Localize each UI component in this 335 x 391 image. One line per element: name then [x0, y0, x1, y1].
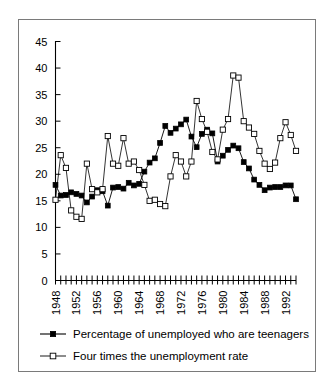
x-tick-label: 1952 — [70, 291, 82, 315]
series-marker-2 — [152, 197, 157, 202]
series-marker-2 — [257, 148, 262, 153]
x-tick-label: 1992 — [280, 291, 292, 315]
series-marker-2 — [157, 201, 162, 206]
series-marker-1 — [231, 143, 236, 148]
series-marker-1 — [247, 166, 252, 171]
series-marker-1 — [163, 124, 168, 129]
series-marker-1 — [168, 130, 173, 135]
y-tick-label: 10 — [35, 221, 47, 233]
series-marker-1 — [273, 185, 278, 190]
series-marker-2 — [100, 187, 105, 192]
series-marker-1 — [179, 122, 184, 127]
series-marker-2 — [267, 166, 272, 171]
series-marker-1 — [111, 185, 116, 190]
series-marker-2 — [121, 136, 126, 141]
series-marker-1 — [84, 200, 89, 205]
series-marker-1 — [236, 146, 241, 151]
series-marker-2 — [178, 159, 183, 164]
series-marker-2 — [90, 187, 95, 192]
legend-label-2: Four times the unemployment rate — [73, 350, 248, 362]
series-marker-2 — [194, 98, 199, 103]
y-tick-label: 45 — [35, 36, 47, 48]
x-tick-label: 1960 — [112, 291, 124, 315]
series-marker-2 — [163, 204, 168, 209]
x-tick-label: 1948 — [50, 291, 62, 315]
y-tick-label: 25 — [35, 142, 47, 154]
series-marker-1 — [126, 180, 131, 185]
series-marker-1 — [226, 147, 231, 152]
series-marker-1 — [241, 160, 246, 165]
series-marker-1 — [252, 177, 257, 182]
series-marker-2 — [288, 132, 293, 137]
series-marker-2 — [283, 120, 288, 125]
legend-marker-1 — [50, 331, 55, 336]
series-marker-1 — [184, 117, 189, 122]
series-marker-1 — [194, 145, 199, 150]
y-tick-label: 20 — [35, 168, 47, 180]
series-marker-1 — [64, 193, 69, 198]
series-marker-2 — [79, 216, 84, 221]
series-marker-2 — [173, 153, 178, 158]
series-marker-2 — [131, 159, 136, 164]
series-marker-1 — [199, 132, 204, 137]
legend-label-1: Percentage of unemployed who are teenage… — [73, 328, 309, 340]
y-tick-label: 30 — [35, 115, 47, 127]
series-marker-2 — [189, 159, 194, 164]
series-marker-2 — [126, 161, 131, 166]
series-marker-2 — [69, 208, 74, 213]
series-marker-1 — [294, 197, 299, 202]
series-marker-1 — [147, 160, 152, 165]
series-marker-2 — [63, 165, 68, 170]
y-tick-label: 15 — [35, 195, 47, 207]
series-marker-1 — [210, 131, 215, 136]
x-tick-label: 1980 — [217, 291, 229, 315]
series-marker-2 — [225, 116, 230, 121]
y-tick-label: 35 — [35, 89, 47, 101]
series-marker-2 — [231, 73, 236, 78]
series-marker-1 — [105, 203, 110, 208]
series-marker-1 — [121, 186, 126, 191]
series-marker-2 — [142, 182, 147, 187]
y-tick-label: 5 — [41, 248, 47, 260]
series-marker-2 — [210, 149, 215, 154]
series-marker-2 — [74, 214, 79, 219]
series-marker-2 — [205, 129, 210, 134]
x-tick-label: 1988 — [259, 291, 271, 315]
series-marker-2 — [199, 116, 204, 121]
series-marker-2 — [252, 131, 257, 136]
series-marker-2 — [58, 153, 63, 158]
series-marker-2 — [220, 127, 225, 132]
series-marker-1 — [278, 185, 283, 190]
series-marker-2 — [293, 148, 298, 153]
series-marker-2 — [215, 157, 220, 162]
series-marker-2 — [241, 119, 246, 124]
series-marker-1 — [90, 194, 95, 199]
series-marker-2 — [84, 161, 89, 166]
series-marker-1 — [132, 183, 137, 188]
series-marker-2 — [53, 197, 58, 202]
x-tick-label: 1976 — [196, 291, 208, 315]
series-marker-2 — [110, 161, 115, 166]
series-marker-1 — [262, 188, 267, 193]
series-marker-2 — [184, 174, 189, 179]
x-tick-label: 1956 — [91, 291, 103, 315]
series-marker-2 — [278, 136, 283, 141]
chart-svg: 0510152025303540451948195219561960196419… — [0, 0, 335, 391]
series-marker-1 — [152, 156, 157, 161]
series-marker-1 — [283, 183, 288, 188]
x-tick-label: 1984 — [238, 291, 250, 315]
y-tick-label: 40 — [35, 62, 47, 74]
series-marker-1 — [158, 141, 163, 146]
legend-marker-2 — [50, 353, 56, 359]
series-marker-1 — [137, 181, 142, 186]
series-marker-2 — [105, 133, 110, 138]
series-marker-2 — [168, 174, 173, 179]
series-marker-2 — [137, 167, 142, 172]
x-tick-label: 1964 — [133, 291, 145, 315]
chart-figure: 0510152025303540451948195219561960196419… — [0, 0, 335, 391]
series-marker-2 — [236, 75, 241, 80]
series-marker-1 — [220, 153, 225, 158]
series-marker-1 — [142, 169, 147, 174]
x-tick-label: 1972 — [175, 291, 187, 315]
series-marker-1 — [267, 185, 272, 190]
